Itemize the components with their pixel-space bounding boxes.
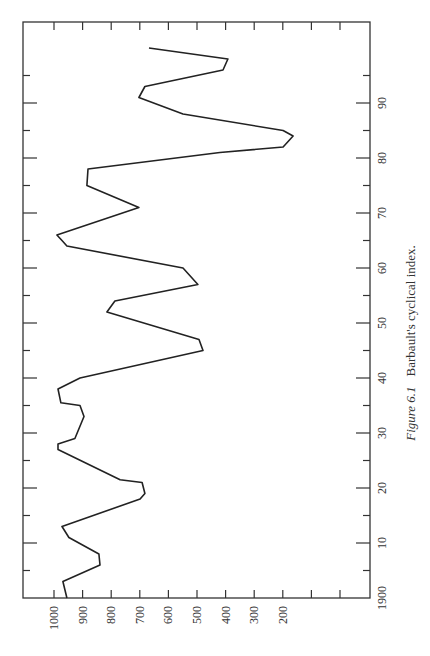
value-tick-label: 1000: [47, 606, 61, 630]
year-tick-label: 80: [375, 152, 389, 164]
year-tick-label: 60: [375, 262, 389, 274]
value-tick-label: 300: [247, 606, 261, 624]
year-tick-label: 40: [375, 372, 389, 384]
value-tick-label: 900: [76, 606, 90, 624]
year-tick-label: 90: [375, 97, 389, 109]
plot-border: [23, 22, 370, 598]
year-tick-label: 50: [375, 317, 389, 329]
figure-label: Figure 6.1: [403, 386, 418, 441]
value-tick-label: 700: [133, 606, 147, 624]
value-tick-label: 400: [219, 606, 233, 624]
year-tick-label: 20: [375, 482, 389, 494]
year-tick-label: 10: [375, 537, 389, 549]
data-series-line: [57, 48, 293, 598]
year-tick-label: 1900: [375, 586, 389, 610]
value-tick-label: 500: [190, 606, 204, 624]
year-tick-label: 70: [375, 207, 389, 219]
value-tick-label: 600: [161, 606, 175, 624]
value-axis-ticks: 1000900800700600500400300200: [47, 22, 340, 630]
index-line: [57, 48, 293, 598]
figure-caption: Figure 6.1Barbault's cyclical index.: [403, 245, 418, 442]
figure-title: Barbault's cyclical index.: [403, 245, 418, 376]
plot-frame: [23, 22, 370, 598]
year-tick-label: 30: [375, 427, 389, 439]
value-tick-label: 200: [276, 606, 290, 624]
caption-text: Figure 6.1Barbault's cyclical index.: [403, 245, 418, 442]
chart: 1000900800700600500400300200 19001020304…: [0, 0, 430, 656]
value-tick-label: 800: [104, 606, 118, 624]
year-axis-ticks: 1900102030405060708090: [23, 76, 389, 611]
